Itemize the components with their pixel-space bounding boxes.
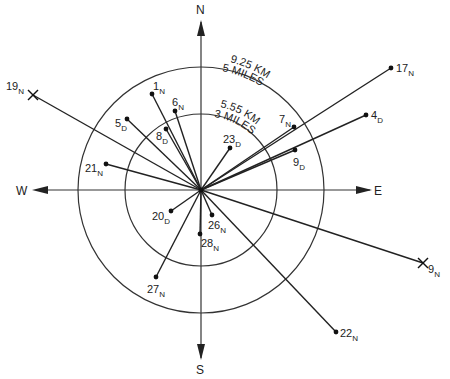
station-19n-cross-marker-icon [28, 90, 38, 100]
station-9n-ray [201, 190, 423, 263]
station-19n-label: 19N [6, 80, 24, 96]
station-6n-dot-marker-icon [173, 109, 178, 114]
north-arrow-icon [197, 20, 205, 36]
station-28n-ray [200, 190, 201, 234]
compass-south-label: S [196, 363, 204, 377]
station-27n-label: 27N [147, 283, 165, 299]
station-17n-label: 17N [396, 62, 414, 78]
station-17n-ray [201, 68, 391, 190]
station-26n-dot-marker-icon [210, 213, 215, 218]
compass-north-label: N [196, 3, 205, 17]
station-22n-label: 22N [340, 327, 358, 343]
station-28n-label: 28N [201, 237, 219, 253]
station-26n-label: 26N [208, 219, 226, 235]
station-23d-dot-marker-icon [228, 146, 233, 151]
center-hub [199, 188, 204, 193]
station-28n-dot-marker-icon [198, 232, 203, 237]
station-17n-dot-marker-icon [389, 66, 394, 71]
station-20d-dot-marker-icon [169, 209, 174, 214]
station-9d-label: 9D [293, 156, 305, 172]
compass-east-label: E [374, 184, 382, 198]
station-22n-ray [201, 190, 336, 332]
wind-rose-diagram: N S E W 9.25 KM 5 MILES 5.55 KM 3 MILES … [0, 0, 450, 379]
east-arrow-icon [356, 186, 372, 194]
station-9n-cross-marker-icon [418, 258, 428, 268]
station-4d-label: 4D [371, 109, 383, 125]
station-20d-ray [171, 190, 201, 211]
station-5d-dot-marker-icon [125, 117, 130, 122]
station-23d-label: 23D [223, 133, 241, 149]
station-27n-dot-marker-icon [154, 275, 159, 280]
station-7n-dot-marker-icon [292, 125, 297, 130]
compass-west-label: W [16, 184, 28, 198]
station-21n-label: 21N [85, 162, 103, 178]
station-4d-ray [201, 115, 366, 190]
station-22n-dot-marker-icon [334, 330, 339, 335]
west-arrow-icon [32, 186, 48, 194]
station-8d-dot-marker-icon [164, 127, 169, 132]
station-7n-label: 7N [279, 113, 291, 129]
station-21n-dot-marker-icon [104, 162, 109, 167]
station-1n-dot-marker-icon [150, 92, 155, 97]
station-20d-label: 20D [152, 210, 170, 226]
south-arrow-icon [197, 344, 205, 360]
station-27n-ray [156, 190, 201, 277]
station-4d-dot-marker-icon [364, 113, 369, 118]
station-8d-label: 8D [156, 130, 168, 146]
station-9n-label: 9N [428, 263, 440, 279]
station-9d-dot-marker-icon [293, 148, 298, 153]
station-1n-label: 1N [153, 80, 165, 96]
